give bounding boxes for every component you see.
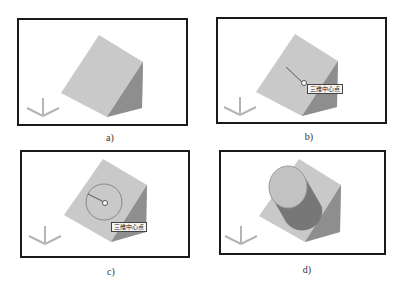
wedge-with-cylinder (221, 152, 384, 253)
viewport-b: 三维中心点 (216, 17, 387, 124)
snap-tooltip: 三维中心点 (307, 84, 343, 94)
viewport-c: 三维中心点 (20, 150, 190, 258)
cylinder-top (269, 166, 307, 208)
ucs-icon (29, 226, 61, 244)
wedge-solid (218, 19, 385, 122)
caption-d: d) (292, 264, 322, 275)
caption-a: a) (95, 132, 125, 143)
viewport-d (219, 150, 386, 255)
wedge-solid (22, 152, 188, 256)
ucs-icon (224, 97, 256, 115)
ucs-icon (27, 98, 59, 116)
viewport-a (17, 18, 188, 126)
cursor-icon (103, 201, 108, 206)
cursor-icon (302, 81, 307, 86)
caption-c: c) (96, 266, 126, 277)
wedge-solid (19, 20, 186, 124)
ucs-icon (225, 226, 257, 244)
snap-tooltip: 三维中心点 (111, 222, 147, 232)
caption-b: b) (294, 131, 324, 142)
